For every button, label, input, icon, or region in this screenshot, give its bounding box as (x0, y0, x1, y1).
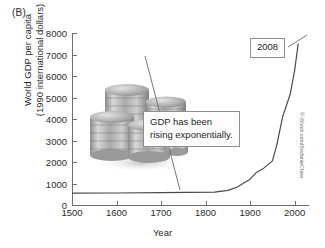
year-marker-leader-line (288, 35, 307, 47)
year-marker-callout: 2008 (250, 38, 285, 58)
image-credit: © iStock.com/SodanieChea (299, 112, 305, 178)
figure-panel-b: (B) World GDP per capita (1990 internati… (0, 0, 325, 248)
gdp-annotation-callout: GDP has been rising exponentially. (143, 111, 240, 147)
